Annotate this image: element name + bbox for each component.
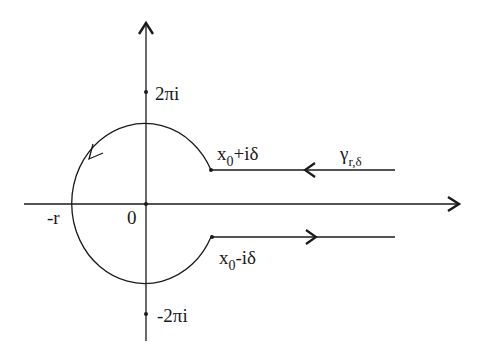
lower-endpoint-dot bbox=[210, 235, 214, 239]
pole-neg2pi-dot bbox=[144, 312, 148, 316]
label-neg-2pi-i: -2πi bbox=[157, 305, 188, 326]
pole-2pi-dot bbox=[144, 90, 148, 94]
contour-diagram: 2πi -2πi 0 -r x0+iδ x0-iδ γr,δ bbox=[0, 0, 486, 353]
upper-endpoint-dot bbox=[209, 168, 213, 172]
label-contour-name: γr,δ bbox=[339, 143, 362, 169]
label-lower-endpoint: x0-iδ bbox=[219, 247, 256, 273]
real-axis bbox=[24, 197, 459, 211]
label-2pi-i: 2πi bbox=[155, 83, 179, 104]
arc-direction-arrow-icon bbox=[89, 144, 103, 159]
label-origin: 0 bbox=[127, 207, 137, 228]
label-upper-endpoint: x0+iδ bbox=[217, 143, 258, 169]
imaginary-axis bbox=[139, 23, 153, 341]
label-neg-r: -r bbox=[47, 207, 60, 228]
origin-dot bbox=[144, 202, 148, 206]
